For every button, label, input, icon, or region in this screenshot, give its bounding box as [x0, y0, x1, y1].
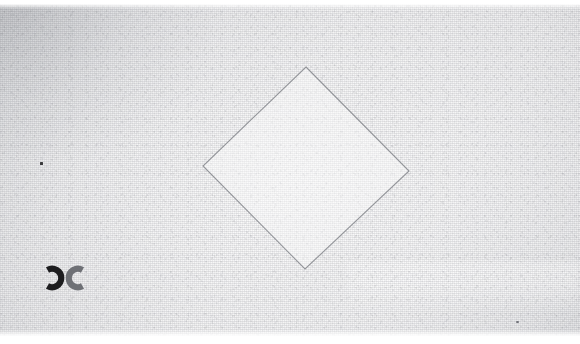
c-icon [69, 269, 83, 287]
bottom-white-margin [0, 336, 580, 344]
reversed-c-icon [48, 269, 62, 287]
cc-stamp-svg [38, 263, 92, 293]
cc-stamp-mark [38, 263, 92, 293]
left-dot-mark [40, 162, 43, 165]
top-white-margin [0, 0, 580, 4]
right-dot-mark [516, 321, 519, 323]
scanned-image-canvas [0, 0, 580, 344]
